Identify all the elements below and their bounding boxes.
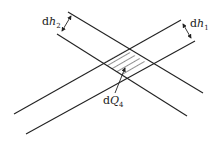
- intersection-hatched-area: [103, 50, 147, 77]
- dh1-label: dh1: [190, 17, 209, 32]
- rising-strip-upper-line: [14, 20, 181, 114]
- rising-strip-lower-line: [26, 41, 195, 134]
- dq4-label: dQ4: [103, 94, 124, 109]
- dh2-label: dh2: [42, 15, 61, 30]
- dh2-dimension-arrow: [62, 16, 71, 31]
- crossing-strips-diagram: dh2 dh1 dQ4: [0, 0, 216, 142]
